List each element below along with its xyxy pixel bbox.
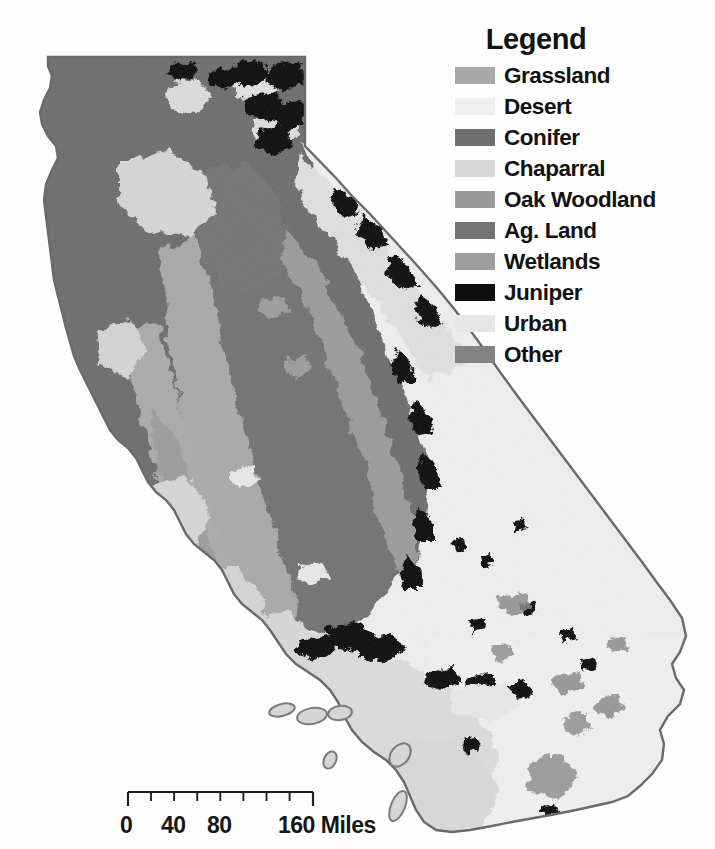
legend-item-conifer[interactable]: Conifer (420, 122, 705, 153)
legend-swatch-wetlands (455, 253, 495, 270)
scale-bar: 0 40 80 160 Miles (118, 786, 408, 846)
legend-item-desert[interactable]: Desert (420, 91, 705, 122)
legend-label-conifer: Conifer (504, 127, 580, 150)
legend-item-wetlands[interactable]: Wetlands (420, 246, 705, 277)
land-cover-figure: Legend Grassland Desert Conifer Chaparra… (0, 0, 715, 849)
legend-item-juniper[interactable]: Juniper (420, 277, 705, 308)
legend: Legend Grassland Desert Conifer Chaparra… (420, 24, 705, 370)
legend-swatch-chaparral (455, 160, 495, 177)
legend-title: Legend (426, 24, 646, 54)
legend-swatch-ag-land (455, 222, 495, 239)
legend-item-chaparral[interactable]: Chaparral (420, 153, 705, 184)
legend-label-urban: Urban (504, 313, 567, 336)
legend-item-urban[interactable]: Urban (420, 308, 705, 339)
legend-swatch-urban (455, 315, 495, 332)
legend-item-oak-woodland[interactable]: Oak Woodland (420, 184, 705, 215)
scale-label-160-miles: 160 Miles (278, 814, 376, 837)
legend-item-ag-land[interactable]: Ag. Land (420, 215, 705, 246)
legend-label-other: Other (504, 344, 562, 367)
scale-label-0: 0 (120, 814, 132, 837)
legend-swatch-desert (455, 98, 495, 115)
legend-swatch-conifer (455, 129, 495, 146)
legend-label-grassland: Grassland (504, 65, 610, 88)
legend-item-other[interactable]: Other (420, 339, 705, 370)
scale-label-40: 40 (161, 814, 186, 837)
legend-label-oak-woodland: Oak Woodland (504, 189, 656, 212)
legend-label-desert: Desert (504, 96, 571, 119)
legend-label-chaparral: Chaparral (504, 158, 605, 181)
legend-swatch-oak-woodland (455, 191, 495, 208)
legend-label-wetlands: Wetlands (504, 251, 600, 274)
legend-item-grassland[interactable]: Grassland (420, 60, 705, 91)
legend-swatch-juniper (455, 284, 495, 301)
legend-swatch-grassland (455, 67, 495, 84)
legend-label-juniper: Juniper (504, 282, 582, 305)
scale-label-80: 80 (207, 814, 232, 837)
legend-swatch-other (455, 346, 495, 363)
legend-label-ag-land: Ag. Land (504, 220, 597, 243)
